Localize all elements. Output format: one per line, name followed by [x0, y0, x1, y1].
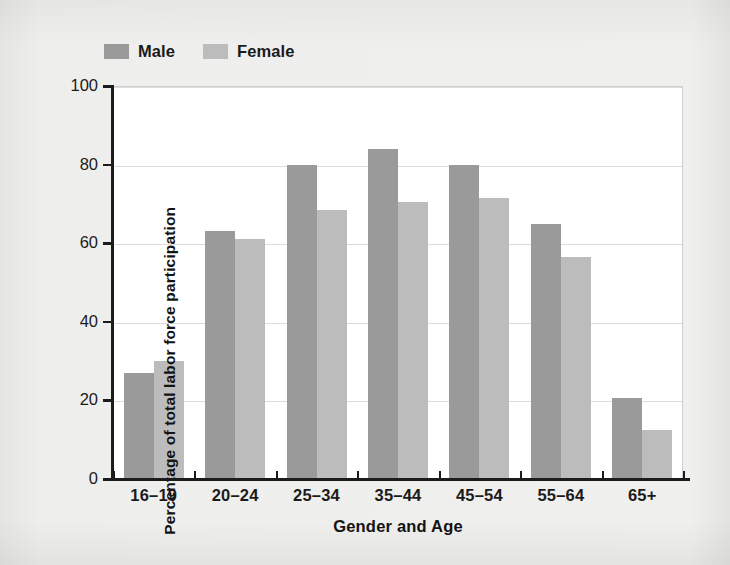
chart-legend: MaleFemale [104, 43, 295, 60]
x-tick-2 [276, 471, 278, 480]
x-tick-label-2: 25–34 [276, 487, 357, 504]
legend-entry-male: Male [104, 43, 175, 60]
x-tick-3 [357, 471, 359, 480]
x-tick-1 [194, 471, 196, 480]
y-tick-label-0: 0 [40, 470, 98, 487]
y-tick-100 [103, 85, 114, 88]
bar-female-45-54 [479, 198, 509, 479]
bar-male-16-19 [124, 373, 154, 479]
legend-entry-female: Female [203, 43, 294, 60]
bar-male-45-54 [449, 165, 479, 479]
legend-label-female: Female [237, 43, 294, 60]
bar-male-20-24 [205, 231, 235, 479]
y-tick-80 [103, 164, 114, 167]
gridline-100 [113, 87, 682, 88]
bar-male-35-44 [368, 149, 398, 479]
y-tick-label-60: 60 [40, 234, 98, 251]
x-tick-label-6: 65+ [602, 487, 683, 504]
x-tick-label-1: 20–24 [194, 487, 275, 504]
x-tick-label-5: 55–64 [520, 487, 601, 504]
y-tick-label-20: 20 [40, 391, 98, 408]
bar-male-25-34 [287, 165, 317, 479]
bar-female-35-44 [398, 202, 428, 479]
bar-male-65+ [612, 398, 642, 479]
x-tick-6 [602, 471, 604, 480]
x-tick-4 [439, 471, 441, 480]
x-tick-label-3: 35–44 [357, 487, 438, 504]
x-axis-title: Gender and Age [113, 518, 683, 535]
y-tick-40 [103, 321, 114, 324]
legend-swatch-female [203, 44, 228, 59]
x-tick-5 [520, 471, 522, 480]
bar-female-55-64 [561, 257, 591, 479]
x-tick-end [683, 471, 685, 480]
figure-canvas: MaleFemale Percentage of total labor for… [0, 0, 730, 565]
x-tick-label-4: 45–54 [439, 487, 520, 504]
y-axis-line [111, 85, 114, 481]
y-tick-20 [103, 399, 114, 402]
bar-male-55-64 [531, 224, 561, 479]
x-tick-0 [113, 471, 115, 480]
y-tick-label-80: 80 [40, 156, 98, 173]
y-tick-label-100: 100 [40, 77, 98, 94]
y-tick-60 [103, 242, 114, 245]
legend-label-male: Male [138, 43, 175, 60]
x-tick-label-0: 16–19 [113, 487, 194, 504]
y-tick-label-40: 40 [40, 313, 98, 330]
plot-area: Percentage of total labor force particip… [113, 86, 683, 479]
bar-female-20-24 [235, 239, 265, 479]
bar-female-65+ [642, 430, 672, 479]
legend-swatch-male [104, 44, 129, 59]
bar-female-25-34 [317, 210, 347, 479]
